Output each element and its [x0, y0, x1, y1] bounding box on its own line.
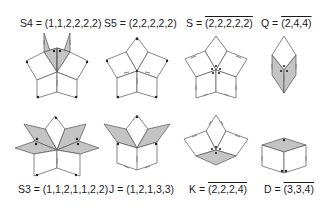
diagram-Q	[272, 36, 296, 93]
diagram-K	[184, 115, 248, 165]
diagram-S	[185, 36, 247, 98]
tiling-diagrams	[0, 0, 322, 210]
diagram-D	[262, 138, 306, 173]
diagram-J	[104, 115, 170, 170]
diagram-S3	[15, 116, 99, 176]
diagram-S5	[106, 37, 168, 98]
diagram-S4	[26, 33, 88, 98]
